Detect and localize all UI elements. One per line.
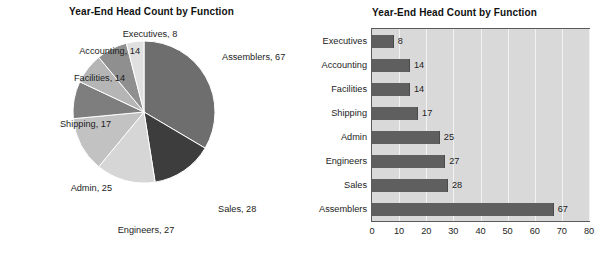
pie-label-assemblers: Assemblers, 67 bbox=[222, 52, 285, 62]
pie-chart-panel: Year-End Head Count by Function Executiv… bbox=[0, 0, 303, 257]
x-tick-label-10: 10 bbox=[394, 226, 404, 236]
x-tick-label-60: 60 bbox=[530, 226, 540, 236]
x-tick-label-50: 50 bbox=[503, 226, 513, 236]
x-tick-label-40: 40 bbox=[475, 226, 485, 236]
x-tick-label-0: 0 bbox=[369, 226, 374, 236]
bar-category-label-engineers: Engineers bbox=[326, 149, 367, 173]
bar-category-label-facilities: Facilities bbox=[331, 77, 367, 101]
bar-row-assemblers[interactable]: 67 bbox=[372, 197, 568, 221]
bar-row-admin[interactable]: 25 bbox=[372, 125, 454, 149]
bar-category-label-assemblers: Assemblers bbox=[319, 197, 367, 221]
x-tick-label-20: 20 bbox=[421, 226, 431, 236]
x-tick-label-70: 70 bbox=[557, 226, 567, 236]
bar-row-engineers[interactable]: 27 bbox=[372, 149, 459, 173]
bar-chart-title: Year-End Head Count by Function bbox=[303, 7, 606, 18]
bar-sales[interactable] bbox=[372, 179, 448, 192]
bar-assemblers[interactable] bbox=[372, 203, 554, 216]
figure-root: Year-End Head Count by Function Executiv… bbox=[0, 0, 606, 257]
bar-value-label-accounting: 14 bbox=[414, 60, 424, 70]
pie-label-admin: Admin, 25 bbox=[0, 183, 112, 193]
bar-executives[interactable] bbox=[372, 35, 394, 48]
bar-value-label-assemblers: 67 bbox=[558, 204, 568, 214]
bar-row-sales[interactable]: 28 bbox=[372, 173, 462, 197]
bar-category-label-shipping: Shipping bbox=[331, 101, 367, 125]
gridline-40 bbox=[481, 29, 482, 221]
bar-chart-panel: Year-End Head Count by Function Executiv… bbox=[303, 0, 606, 257]
pie-label-facilities: Facilities, 14 bbox=[0, 73, 125, 83]
x-tick-label-80: 80 bbox=[584, 226, 594, 236]
bar-category-label-accounting: Accounting bbox=[322, 53, 367, 77]
pie-label-engineers: Engineers, 27 bbox=[86, 225, 206, 235]
bar-row-facilities[interactable]: 14 bbox=[372, 77, 424, 101]
pie-label-shipping: Shipping, 17 bbox=[0, 119, 111, 129]
bar-shipping[interactable] bbox=[372, 107, 418, 120]
pie-label-executives: Executives, 8 bbox=[95, 29, 205, 39]
pie-chart-title: Year-End Head Count by Function bbox=[0, 6, 303, 17]
bar-category-label-executives: Executives bbox=[323, 29, 367, 53]
pie-label-accounting: Accounting, 14 bbox=[0, 46, 140, 56]
gridline-70 bbox=[562, 29, 563, 221]
x-tick-label-30: 30 bbox=[448, 226, 458, 236]
bar-admin[interactable] bbox=[372, 131, 440, 144]
bar-value-label-admin: 25 bbox=[444, 132, 454, 142]
bar-engineers[interactable] bbox=[372, 155, 445, 168]
pie-svg bbox=[72, 40, 216, 184]
bar-category-label-admin: Admin bbox=[341, 125, 367, 149]
bar-row-executives[interactable]: 8 bbox=[372, 29, 403, 53]
bar-facilities[interactable] bbox=[372, 83, 410, 96]
bar-chart-plot-area: 814141725272867 bbox=[371, 28, 590, 222]
bar-value-label-sales: 28 bbox=[452, 180, 462, 190]
bar-value-label-facilities: 14 bbox=[414, 84, 424, 94]
bar-value-label-shipping: 17 bbox=[422, 108, 432, 118]
bar-value-label-engineers: 27 bbox=[449, 156, 459, 166]
bar-accounting[interactable] bbox=[372, 59, 410, 72]
pie-chart-graphic bbox=[72, 40, 216, 184]
bar-value-label-executives: 8 bbox=[398, 36, 403, 46]
gridline-50 bbox=[508, 29, 509, 221]
pie-label-sales: Sales, 28 bbox=[218, 204, 256, 214]
gridline-80 bbox=[589, 29, 590, 221]
bar-category-label-sales: Sales bbox=[344, 173, 367, 197]
gridline-60 bbox=[535, 29, 536, 221]
bar-row-accounting[interactable]: 14 bbox=[372, 53, 424, 77]
bar-row-shipping[interactable]: 17 bbox=[372, 101, 432, 125]
